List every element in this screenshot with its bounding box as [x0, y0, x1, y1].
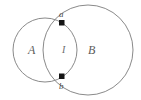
intersection-point-a-label: a: [59, 10, 64, 19]
venn-diagram-figure: A B I a b: [0, 0, 141, 100]
circle-a-outline: [13, 18, 77, 82]
intersection-region-label: I: [62, 45, 65, 55]
venn-diagram-canvas: [0, 0, 141, 100]
circle-b-label: B: [88, 44, 95, 56]
intersection-point-a-marker: [59, 20, 65, 26]
intersection-point-b-marker: [59, 74, 65, 80]
intersection-point-b-label: b: [59, 82, 64, 91]
circle-a-label: A: [28, 44, 35, 56]
